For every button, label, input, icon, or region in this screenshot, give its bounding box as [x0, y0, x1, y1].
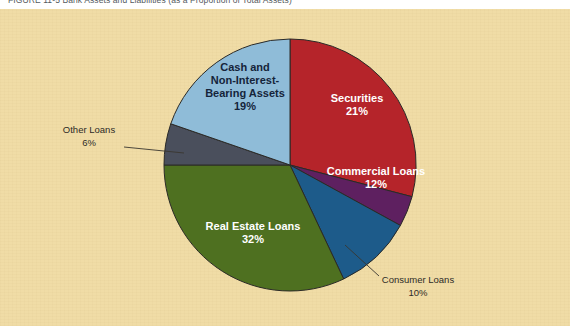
pie-chart-panel: Securities 21% Commercial Loans 12% Real…: [0, 9, 570, 326]
label-securities-name: Securities: [331, 92, 384, 104]
label-cash-value: 19%: [234, 100, 256, 112]
label-commercial-loans-name: Commercial Loans: [327, 165, 425, 177]
label-cash-line3: Bearing Assets: [205, 87, 285, 99]
label-real-estate-loans-value: 32%: [242, 233, 264, 245]
label-real-estate-loans-name: Real Estate Loans: [206, 220, 301, 232]
callout-consumer-loans-name: Consumer Loans: [382, 274, 455, 285]
label-commercial-loans-value: 12%: [365, 178, 387, 190]
pie-chart-svg: Securities 21% Commercial Loans 12% Real…: [0, 9, 570, 326]
callout-other-loans-value: 6%: [82, 137, 96, 148]
figure-caption-strip: FIGURE 11-5 Bank Assets and Liabilities …: [0, 0, 570, 9]
label-cash-line1: Cash and: [220, 61, 270, 73]
label-securities-value: 21%: [346, 105, 368, 117]
figure-page: FIGURE 11-5 Bank Assets and Liabilities …: [0, 0, 570, 326]
figure-caption: FIGURE 11-5 Bank Assets and Liabilities …: [8, 0, 292, 5]
callout-consumer-loans-value: 10%: [408, 287, 428, 298]
callout-other-loans-name: Other Loans: [63, 124, 116, 135]
label-cash-line2: Non-Interest-: [211, 74, 280, 86]
